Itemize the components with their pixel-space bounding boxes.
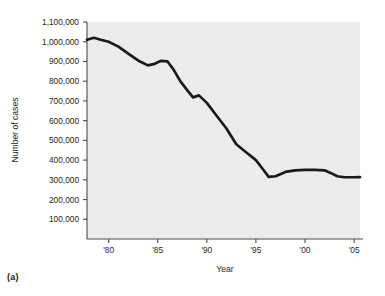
- y-tick-label: 500,000: [49, 135, 79, 145]
- y-tick-label: 900,000: [49, 56, 79, 66]
- y-axis-title: Number of cases: [10, 98, 20, 163]
- x-axis-title: Year: [216, 264, 234, 274]
- line-chart: 100,000200,000300,000400,000500,000600,0…: [0, 0, 385, 296]
- x-tick-label: '00: [300, 245, 311, 255]
- x-tick-label: '80: [103, 245, 114, 255]
- y-tick-label: 400,000: [49, 155, 79, 165]
- y-tick-label: 200,000: [49, 195, 79, 205]
- x-axis-ticks: '80'85'90'95'00'05: [103, 239, 360, 255]
- y-tick-label: 800,000: [49, 76, 79, 86]
- y-tick-label: 700,000: [49, 96, 79, 106]
- x-tick-label: '05: [349, 245, 360, 255]
- y-tick-label: 300,000: [49, 175, 79, 185]
- y-axis-ticks: 100,000200,000300,000400,000500,000600,0…: [42, 17, 87, 224]
- x-tick-label: '85: [152, 245, 163, 255]
- y-tick-label: 1,100,000: [42, 17, 79, 27]
- y-tick-label: 100,000: [49, 214, 79, 224]
- y-tick-label: 1,000,000: [42, 37, 79, 47]
- x-tick-label: '95: [250, 245, 261, 255]
- panel-caption: (a): [7, 272, 19, 282]
- figure-panel-a: 100,000200,000300,000400,000500,000600,0…: [0, 0, 385, 296]
- y-tick-label: 600,000: [49, 116, 79, 126]
- x-tick-label: '90: [201, 245, 212, 255]
